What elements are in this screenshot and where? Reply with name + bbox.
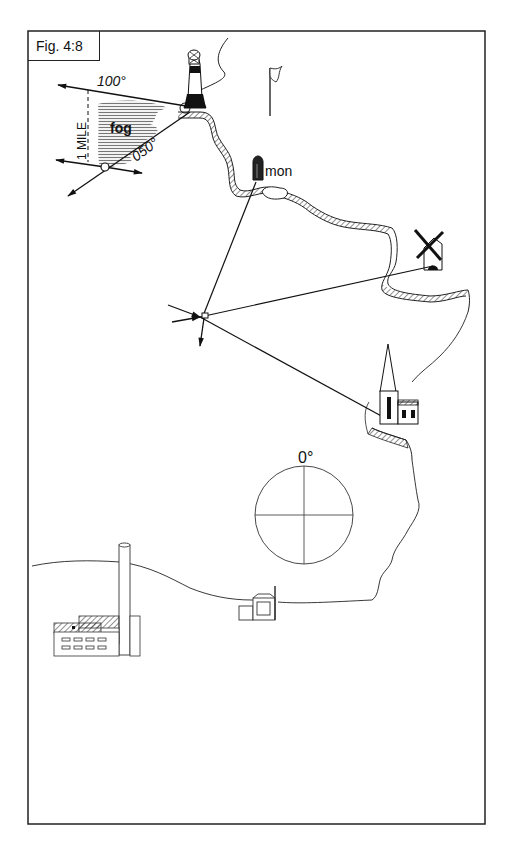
flagstaff-icon [270, 66, 282, 116]
chart-diagram: fog 100° 050° 1 MILE mon [0, 0, 513, 853]
dr-position-circle [101, 163, 109, 171]
fog-label: fog [110, 120, 132, 136]
fix-position [168, 305, 208, 346]
lighthouse-icon [184, 50, 206, 108]
monument-label: mon [265, 163, 292, 179]
bearing-label-100: 100° [97, 73, 126, 89]
windmill-icon [415, 230, 443, 270]
coastline [32, 38, 470, 603]
hut-icon [239, 586, 275, 620]
figure-frame [28, 31, 485, 824]
compass-rose [255, 466, 353, 564]
position-line-church [200, 317, 385, 418]
factory-icon [54, 543, 140, 656]
transferred-position-arrow-right [105, 167, 142, 173]
distance-label: 1 MILE [75, 122, 89, 160]
church-icon [380, 344, 418, 424]
compass-north-label: 0° [298, 449, 313, 466]
position-line-monument [203, 182, 256, 316]
transferred-position-arrow-left [56, 160, 105, 167]
